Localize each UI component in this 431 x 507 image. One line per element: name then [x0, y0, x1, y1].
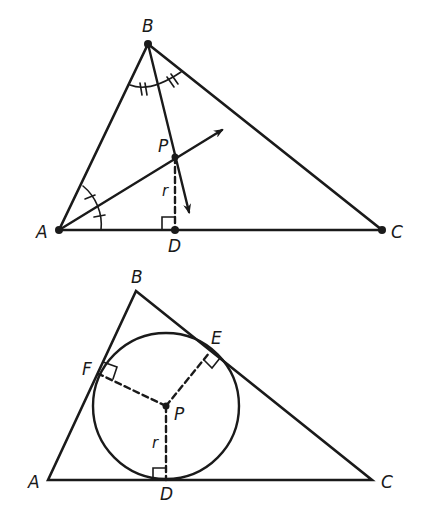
labels-top: B A C P D r [35, 16, 403, 256]
angle-tick-b2 [145, 83, 147, 95]
label-c-top: C [391, 222, 403, 242]
figure-angle-bisectors [59, 44, 382, 230]
label-r-top: r [162, 182, 169, 200]
point-p-top [172, 154, 179, 161]
label-p-bottom: P [174, 404, 185, 424]
point-p-bottom [163, 403, 170, 410]
labels-bottom: B A C P D E F r [27, 267, 393, 504]
label-p-top: P [158, 136, 169, 156]
angle-tick-a2 [94, 215, 105, 217]
point-a-top [55, 226, 63, 234]
point-b-top [144, 40, 152, 48]
label-e-bottom: E [211, 328, 222, 348]
label-c-bottom: C [381, 472, 393, 492]
label-d-top: D [168, 236, 181, 256]
label-r-bottom: r [152, 434, 159, 452]
label-a-bottom: A [27, 472, 40, 492]
radius-pf [99, 374, 166, 406]
angle-arc-a [83, 186, 101, 230]
label-a-top: A [35, 222, 48, 242]
point-d-top [171, 226, 179, 234]
angle-tick-b1 [140, 83, 142, 95]
bisector-b-ray [148, 44, 189, 212]
geometry-diagram: B A C P D r B A C P D E F r [0, 0, 431, 507]
figure-incircle [48, 291, 372, 480]
label-f-bottom: F [82, 359, 92, 379]
right-angle-mark-e [204, 358, 220, 368]
label-d-bottom: D [160, 484, 173, 504]
label-b-bottom: B [131, 267, 143, 287]
triangle-abc-top [59, 44, 382, 230]
point-c-top [378, 226, 386, 234]
label-b-top: B [142, 16, 154, 36]
